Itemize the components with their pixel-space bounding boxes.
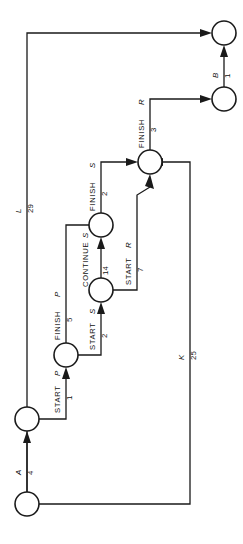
arc-finish-r-line	[150, 99, 200, 150]
activity-network-svg: L 29 K 25 A 4 B 1 START P 1 FINISH P 5 S…	[0, 0, 243, 544]
label-start-r-duration: 7	[136, 267, 145, 272]
label-finish-p-duration: 5	[65, 317, 74, 322]
arc-start-r	[113, 174, 154, 290]
arc-B-arrowhead	[220, 45, 228, 57]
node-origin[interactable]	[15, 492, 39, 516]
label-finish-r-duration: 3	[149, 127, 158, 132]
label-start-s: START	[88, 322, 97, 350]
arc-L-line	[27, 33, 200, 492]
label-B: B	[211, 72, 220, 78]
arc-B	[220, 45, 228, 87]
label-finish-r: FINISH	[137, 119, 146, 148]
arc-L-arrowhead	[200, 29, 212, 37]
label-finish-s-duration: 2	[100, 191, 109, 196]
label-finish-s: FINISH	[88, 182, 97, 211]
node-finish-p[interactable]	[54, 343, 78, 367]
label-continue-s-resource: S	[81, 232, 90, 238]
label-A: A	[14, 469, 23, 476]
node-junction[interactable]	[138, 150, 162, 174]
label-start-s-resource: S	[88, 308, 97, 314]
label-L-duration: 29	[26, 204, 35, 213]
label-start-p: START	[53, 385, 62, 413]
label-start-r: START	[124, 257, 133, 285]
label-finish-p: FINISH	[53, 311, 62, 340]
label-continue-s: CONTINUE	[81, 242, 90, 287]
label-K: K	[177, 354, 186, 360]
arc-start-r-arrowhead	[145, 174, 154, 189]
label-start-s-duration: 2	[100, 333, 109, 338]
arc-finish-s-arrowhead	[126, 158, 138, 166]
arc-finish-r-arrowhead	[200, 95, 212, 103]
arc-finish-s-line	[101, 162, 126, 213]
label-A-duration: 4	[26, 470, 35, 475]
label-B-duration: 1	[223, 73, 232, 78]
node-terminal[interactable]	[212, 21, 236, 45]
label-L: L	[14, 208, 23, 213]
label-start-p-resource: P	[53, 370, 62, 376]
arc-start-p-arrowhead	[62, 367, 70, 379]
arc-A	[23, 431, 31, 492]
node-finish-r[interactable]	[212, 87, 236, 111]
label-finish-p-resource: P	[53, 291, 62, 297]
label-finish-s-resource: S	[88, 162, 97, 168]
arc-finish-s	[101, 158, 138, 213]
arc-continue-s-arrowhead	[97, 237, 105, 249]
label-finish-r-resource: R	[137, 99, 146, 105]
diagram-canvas: L 29 K 25 A 4 B 1 START P 1 FINISH P 5 S…	[0, 0, 243, 544]
arc-start-s-arrowhead	[97, 302, 105, 314]
arc-A-arrowhead	[23, 431, 31, 443]
arc-finish-r	[150, 95, 212, 150]
node-start-p[interactable]	[15, 407, 39, 431]
label-start-r-resource: R	[124, 242, 133, 248]
label-start-p-duration: 1	[65, 395, 74, 400]
label-K-duration: 25	[189, 350, 198, 360]
node-start-s[interactable]	[89, 278, 113, 302]
label-continue-s-duration: 14	[101, 265, 110, 275]
node-finish-s[interactable]	[89, 213, 113, 237]
